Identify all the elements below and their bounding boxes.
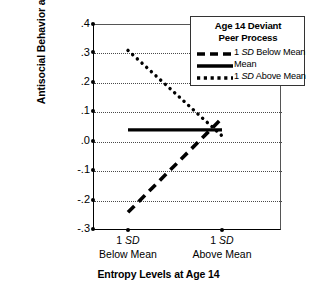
y-tick-mark-0.2 [91, 80, 95, 84]
legend-label-mean: Mean [234, 59, 256, 69]
legend-item-1sd-above-mean: 1 SD Above Mean [196, 70, 300, 82]
y-tick-label--0.3: -.3 [58, 222, 90, 234]
chart-legend: Age 14 Deviant Peer Process 1 SD Below M… [190, 16, 305, 86]
y-tick-mark-0.0 [91, 139, 95, 143]
y-tick-mark--0.3 [91, 227, 95, 231]
gridline--0.2 [94, 201, 282, 202]
y-tick-label-0.3: .3 [58, 46, 90, 58]
y-tick-label--0.2: -.2 [58, 193, 90, 205]
gridline-0.0 [94, 142, 282, 143]
y-tick-label-0.1: .1 [58, 104, 90, 116]
x-tick-label-above-mean: 1 SD Above Mean [167, 234, 277, 261]
gridline-0.1 [94, 112, 282, 113]
x-axis-title: Entropy Levels at Age 14 [0, 268, 317, 280]
legend-key-dashed-icon [196, 46, 234, 58]
y-tick-label-0.2: .2 [58, 75, 90, 87]
y-tick-label-0.4: .4 [58, 17, 90, 29]
x-tick-mark-below-mean [126, 228, 130, 232]
legend-title: Age 14 Deviant Peer Process [196, 20, 300, 43]
legend-item-1sd-below-mean: 1 SD Below Mean [196, 46, 300, 58]
y-axis-title: Antisocial Behavior at Age 24 [33, 0, 49, 135]
gridline--0.1 [94, 171, 282, 172]
legend-title-line2: Peer Process [196, 32, 300, 44]
legend-label-1sd-below-mean: 1 SD Below Mean [234, 47, 305, 57]
legend-label-1sd-above-mean: 1 SD Above Mean [234, 71, 306, 81]
y-tick-mark-0.4 [91, 22, 95, 26]
x-tick-label-above-mean-line2: Above Mean [167, 248, 277, 262]
legend-key-solid-icon [196, 58, 234, 70]
legend-item-mean: Mean [196, 58, 300, 70]
legend-title-line1: Age 14 Deviant [196, 20, 300, 32]
y-tick-label--0.1: -.1 [58, 163, 90, 175]
chart-figure: Antisocial Behavior at Age 24 .4 .3 .2 .… [0, 0, 317, 291]
x-tick-mark-above-mean [220, 228, 224, 232]
x-tick-label-above-mean-line1: 1 SD [167, 234, 277, 248]
y-tick-label-0.0: .0 [58, 134, 90, 146]
legend-key-dotted-icon [196, 70, 234, 82]
legend-items: 1 SD Below Mean Mean 1 SD Above Mean [196, 46, 300, 82]
y-tick-mark--0.2 [91, 198, 95, 202]
